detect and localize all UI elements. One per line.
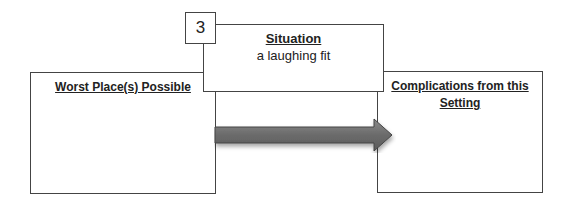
number-badge: 3 — [185, 12, 216, 44]
situation-heading: Situation — [204, 30, 383, 47]
right-arrow-icon — [214, 117, 396, 153]
situation-value: a laughing fit — [204, 47, 383, 65]
situation-box: Situation a laughing fit — [203, 24, 384, 92]
complications-heading: Complications from this Setting — [378, 78, 542, 112]
worst-places-heading: Worst Place(s) Possible — [31, 79, 215, 96]
complications-box: Complications from this Setting — [377, 71, 543, 193]
worst-places-box: Worst Place(s) Possible — [30, 72, 216, 194]
